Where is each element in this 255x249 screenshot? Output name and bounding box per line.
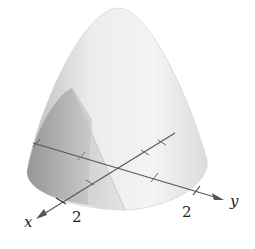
- y-tick-label: 2: [182, 203, 192, 221]
- paraboloid-diagram: x 2 2 y: [0, 0, 255, 249]
- x-axis-label: x: [24, 213, 33, 231]
- x-axis-arrow-icon: [36, 209, 47, 219]
- y-axis-label: y: [229, 192, 239, 210]
- y-axis-arrow-icon: [212, 193, 224, 200]
- x-tick-label: 2: [72, 208, 82, 226]
